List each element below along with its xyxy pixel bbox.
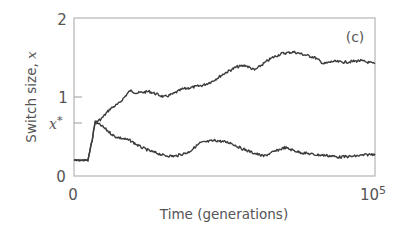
x-tick-label-max: 105 (360, 184, 386, 204)
y-tick-label-xstar: x* (49, 114, 63, 132)
plot-frame (74, 18, 375, 176)
chart: 2 1 0 x* 0 105 Time (generations) Switch… (0, 0, 407, 228)
series-layer (74, 51, 375, 161)
series-line-branch-upper (74, 51, 375, 161)
y-tick-label-2: 2 (57, 11, 67, 29)
series-line-branch-lower (74, 121, 375, 161)
y-tick-label-0: 0 (56, 168, 66, 186)
y-axis-title: Switch size, x (23, 51, 39, 143)
y-tick-label-1: 1 (58, 89, 68, 107)
x-tick-label-0: 0 (68, 186, 78, 204)
x-axis-title: Time (generations) (159, 206, 288, 222)
panel-label: (c) (346, 29, 365, 45)
